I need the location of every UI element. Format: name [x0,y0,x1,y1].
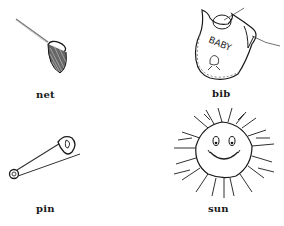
bib-picture: BABY [186,4,282,84]
bib-icon: BABY [186,4,282,84]
word-label-bib: bib [212,88,230,99]
sun-icon [166,108,278,198]
word-label-sun: sun [208,203,229,214]
word-label-pin: pin [36,203,55,214]
pin-picture [4,134,84,184]
net-picture [14,16,76,78]
safety-pin-icon [4,134,84,184]
sun-picture [166,108,278,198]
word-label-net: net [36,89,55,100]
net-icon [14,16,76,78]
